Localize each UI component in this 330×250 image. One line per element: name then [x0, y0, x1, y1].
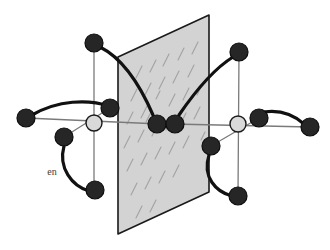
bridging-atom-right	[166, 115, 184, 133]
bridging-atom-left	[148, 115, 166, 133]
metal-center-left	[86, 115, 102, 131]
figure-canvas: en	[0, 0, 330, 250]
nitrogen-top-right	[230, 43, 248, 61]
nitrogen-top-left	[85, 34, 103, 52]
en-label-left: en	[47, 166, 56, 177]
chemistry-figure: en	[0, 0, 330, 250]
nitrogen-lower-left-lower	[86, 181, 104, 199]
nitrogen-lower-left-upper	[55, 128, 73, 146]
nitrogen-far-right	[301, 118, 319, 136]
curve-far-left-to-inner-left	[32, 102, 109, 115]
metal-center-right	[230, 116, 246, 132]
ligand-label-group: en	[47, 166, 56, 177]
nitrogen-inner-right	[250, 109, 268, 127]
nitrogen-far-left	[17, 109, 35, 127]
curve-en-chelate-left	[63, 146, 89, 191]
nitrogen-inner-left	[101, 99, 119, 117]
curve-en-chelate-right	[207, 155, 232, 196]
nitrogen-lower-right-upper	[202, 137, 220, 155]
nitrogen-lower-right-lower	[229, 187, 247, 205]
